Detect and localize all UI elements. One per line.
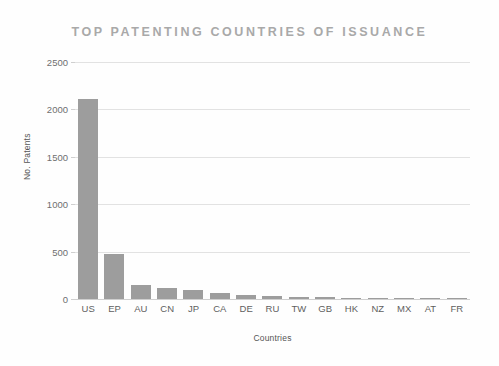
bar-fr[interactable] [447, 298, 467, 299]
bar-ru[interactable] [262, 296, 282, 299]
chart-title: TOP PATENTING COUNTRIES OF ISSUANCE [0, 25, 499, 39]
x-tick-label: MX [391, 303, 417, 314]
x-tick-label: RU [259, 303, 285, 314]
y-tick-label: 0 [63, 294, 68, 305]
x-axis-tick-labels: USEPAUCNJPCADERUTWGBHKNZMXATFR [75, 303, 470, 314]
bar-hk[interactable] [341, 298, 361, 299]
y-tick-label: 2000 [47, 104, 68, 115]
x-tick-label: FR [444, 303, 470, 314]
bar-chart: TOP PATENTING COUNTRIES OF ISSUANCE No. … [0, 0, 499, 366]
bar-tw[interactable] [289, 297, 309, 299]
bar-jp[interactable] [183, 290, 203, 299]
bar-slot [338, 62, 364, 299]
bar-slot [312, 62, 338, 299]
bar-series [75, 62, 470, 299]
y-axis-label: No. Patents [22, 133, 32, 180]
x-tick-label: CA [207, 303, 233, 314]
x-tick-label: HK [338, 303, 364, 314]
bar-slot [75, 62, 101, 299]
bar-slot [128, 62, 154, 299]
bar-au[interactable] [131, 285, 151, 299]
bar-slot [286, 62, 312, 299]
x-tick-label: NZ [365, 303, 391, 314]
bar-us[interactable] [78, 99, 98, 299]
bar-slot [417, 62, 443, 299]
x-tick-label: AT [417, 303, 443, 314]
x-tick-label: JP [180, 303, 206, 314]
bar-ca[interactable] [210, 293, 230, 299]
y-tick-mark [71, 299, 75, 300]
gridline [75, 299, 470, 300]
bar-gb[interactable] [315, 297, 335, 299]
bar-at[interactable] [420, 298, 440, 299]
x-tick-label: TW [286, 303, 312, 314]
x-tick-label: CN [154, 303, 180, 314]
bar-mx[interactable] [394, 298, 414, 299]
bar-slot [233, 62, 259, 299]
bar-slot [180, 62, 206, 299]
bar-slot [391, 62, 417, 299]
bar-slot [154, 62, 180, 299]
x-tick-label: AU [128, 303, 154, 314]
y-tick-label: 1500 [47, 151, 68, 162]
bar-slot [259, 62, 285, 299]
bar-slot [207, 62, 233, 299]
y-tick-label: 2500 [47, 57, 68, 68]
bar-de[interactable] [236, 295, 256, 299]
plot-area: 05001000150020002500 [75, 62, 470, 299]
bar-ep[interactable] [104, 254, 124, 299]
y-tick-label: 1000 [47, 199, 68, 210]
x-tick-label: US [75, 303, 101, 314]
x-tick-label: GB [312, 303, 338, 314]
bar-cn[interactable] [157, 288, 177, 299]
bar-slot [444, 62, 470, 299]
bar-slot [365, 62, 391, 299]
x-tick-label: EP [101, 303, 127, 314]
y-tick-label: 500 [52, 246, 68, 257]
x-tick-label: DE [233, 303, 259, 314]
x-axis-label: Countries [75, 333, 470, 343]
bar-slot [101, 62, 127, 299]
bar-nz[interactable] [368, 298, 388, 299]
